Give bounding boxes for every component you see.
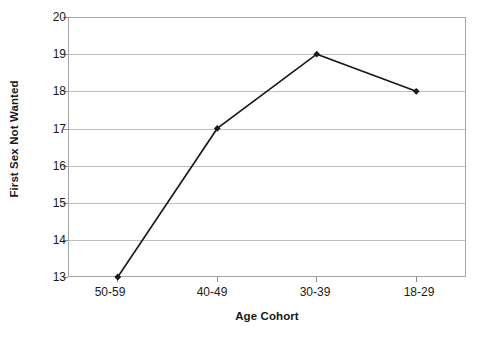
y-axis-tick-label: 15 xyxy=(53,197,66,209)
x-tick-mark xyxy=(117,277,118,282)
x-axis-tick-label: 50-59 xyxy=(95,285,126,299)
y-axis-tick-label: 20 xyxy=(53,11,66,23)
line-chart-figure: First Sex Not Wanted 20 19 18 17 16 15 1… xyxy=(0,0,483,338)
y-axis-tick-label: 13 xyxy=(53,271,66,283)
y-axis-tick-label: 17 xyxy=(53,123,66,135)
x-axis-tick-label: 40-49 xyxy=(197,285,228,299)
gridline xyxy=(69,91,465,92)
y-axis-title: First Sex Not Wanted xyxy=(0,0,28,278)
x-tick-mark xyxy=(316,277,317,282)
x-tick-mark xyxy=(416,277,417,282)
x-axis-tick-label: 30-39 xyxy=(300,285,331,299)
gridline xyxy=(69,166,465,167)
y-axis-tick-label: 18 xyxy=(53,85,66,97)
x-axis-title: Age Cohort xyxy=(68,310,466,322)
y-axis-tick-label: 19 xyxy=(53,48,66,60)
plot-area xyxy=(68,17,466,277)
y-axis-tick-label: 14 xyxy=(53,234,66,246)
y-axis-title-text: First Sex Not Wanted xyxy=(8,80,20,197)
x-tick-mark xyxy=(217,277,218,282)
gridline xyxy=(69,129,465,130)
gridline xyxy=(69,240,465,241)
x-axis-tick-label: 18-29 xyxy=(404,285,435,299)
gridline xyxy=(69,203,465,204)
gridline xyxy=(69,54,465,55)
y-axis-tick-label: 16 xyxy=(53,160,66,172)
